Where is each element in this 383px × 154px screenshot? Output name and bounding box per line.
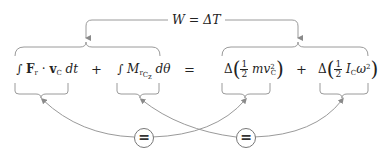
- term2-brace: [117, 83, 159, 98]
- term4-brace: [320, 83, 368, 98]
- equals-operator: =: [184, 62, 195, 77]
- translational-ke-term: Δ(12 mv2C): [224, 57, 284, 81]
- term1-brace: [15, 83, 68, 98]
- curve-eq2-to-term4: [254, 100, 342, 137]
- curve-term1-to-eq1: [43, 100, 134, 137]
- work-energy-label: W = ΔT: [168, 13, 225, 27]
- term3-brace: [222, 83, 270, 98]
- top-bracket-line: [86, 20, 168, 38]
- plus-operator-1: +: [91, 62, 102, 77]
- translational-work-term: ∫ Fr · vC dt: [16, 62, 78, 77]
- work-brace: [15, 42, 160, 56]
- equivalence-marker-1: =: [134, 128, 154, 148]
- plus-operator-2: +: [296, 62, 307, 77]
- curve-term2-to-eq2: [142, 100, 236, 137]
- equivalence-marker-2: =: [236, 128, 256, 148]
- rotational-work-term: ∫ MrCz dθ: [117, 62, 171, 81]
- curve-eq1-to-term3: [152, 100, 245, 137]
- kinetic-energy-brace: [222, 42, 368, 56]
- rotational-ke-term: Δ(12 ICω2): [318, 57, 378, 81]
